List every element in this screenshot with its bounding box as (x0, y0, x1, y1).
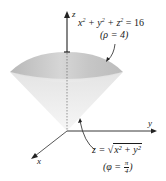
y-axis-arrow-icon (151, 129, 157, 134)
y-axis-label: y (148, 119, 152, 128)
sphere-pointer (108, 44, 115, 60)
cone-equation: z = √x² + y² (92, 145, 142, 155)
sphere-equation: x2 + y2 + z2 = 16 (78, 17, 144, 28)
z-axis-label: z (72, 10, 76, 19)
z-axis-arrow-icon (64, 11, 70, 18)
sphere-cap (10, 52, 123, 79)
x-axis-label: x (37, 157, 41, 166)
cone-spherical-form: (φ = π 4 ) (103, 160, 132, 175)
sphere-spherical-form: (ρ = 4) (100, 30, 128, 40)
